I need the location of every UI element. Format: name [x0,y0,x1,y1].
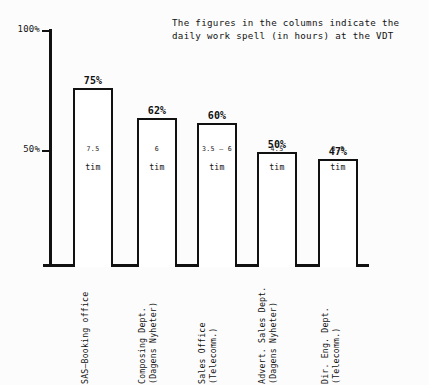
bar-sas-booking-office[interactable]: 7.5 tim [73,88,113,267]
y-axis-line [49,29,52,267]
chart-annotation: The figures in the columns indicate the … [172,16,422,42]
bar-percent-label: 62% [137,105,177,116]
bar-hours-label: 3.5 – 6 [198,145,236,153]
bar-composing-dept[interactable]: 6 tim [137,118,177,267]
y-tick-100 [42,30,50,32]
bar-unit-label: tim [320,162,356,172]
y-tick-label-100: 100% [18,24,40,34]
x-axis-label-advert-sales-dept: Advert. Sales Dept. (Dagens Nyheter) [257,274,279,384]
bar-percent-label: 60% [197,110,237,121]
bar-unit-label: tim [259,162,295,172]
bar-percent-label: 75% [73,75,113,86]
bar-advert-sales-dept[interactable]: 4.5 tim [257,152,297,267]
bar-hours-label: 6 [139,145,175,153]
bar-unit-label: tim [199,162,235,172]
bar-unit-label: tim [75,162,111,172]
bar-hours-label: 3.5 [320,145,356,153]
bar-dir-eng-dept[interactable]: 3.5 tim [318,159,358,267]
bar-chart: The figures in the columns indicate the … [0,0,429,385]
y-tick-label-50: 50% [23,144,40,154]
x-axis-label-composing-dept: Composing Dept. (Dagens Nyheter) [137,274,159,384]
x-axis-label-sas-booking-office: SAS—Booking office [80,274,91,384]
bar-hours-label: 7.5 [75,145,111,153]
bar-sales-office[interactable]: 3.5 – 6 tim [197,123,237,267]
y-tick-50 [42,150,50,152]
bar-unit-label: tim [139,162,175,172]
bar-hours-label: 4.5 [259,145,295,153]
x-axis-label-dir-eng-dept: Dir. Eng. Dept. (Telecomm.) [320,274,342,384]
x-axis-label-sales-office: Sales Office (Telecomm.) [197,274,219,384]
